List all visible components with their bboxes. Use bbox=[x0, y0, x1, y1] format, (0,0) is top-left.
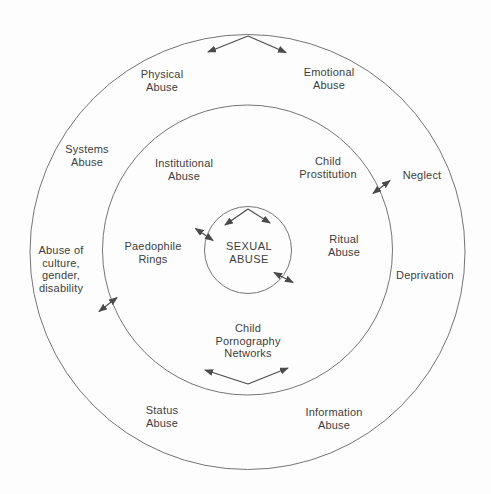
label-ritual-abuse: Ritual Abuse bbox=[328, 233, 360, 258]
arrow-middle-circle-bottom bbox=[205, 368, 288, 384]
arrow-inner-circle-lower-right bbox=[274, 273, 293, 283]
label-physical-abuse: Physical Abuse bbox=[141, 68, 184, 93]
arrow-inner-circle-upper-left bbox=[196, 229, 214, 241]
label-deprivation: Deprivation bbox=[396, 269, 454, 282]
label-sexual-abuse-center: SEXUAL ABUSE bbox=[226, 240, 272, 265]
label-paedophile-rings: Paedophile Rings bbox=[124, 240, 181, 265]
arrow-outer-circle-top bbox=[208, 36, 286, 53]
label-emotional-abuse: Emotional Abuse bbox=[304, 66, 355, 91]
label-status-abuse: Status Abuse bbox=[146, 404, 178, 429]
label-child-prostitution: Child Prostitution bbox=[299, 155, 356, 180]
label-systems-abuse: Systems Abuse bbox=[65, 143, 109, 168]
label-institutional-abuse: Institutional Abuse bbox=[155, 157, 213, 182]
label-information-abuse: Information Abuse bbox=[305, 406, 362, 431]
label-abuse-of-culture-gender-disability: Abuse of culture, gender, disability bbox=[38, 244, 83, 294]
label-child-pornography-networks: Child Pornography Networks bbox=[215, 322, 280, 360]
arrow-inner-circle-top bbox=[225, 209, 270, 225]
diagram-page: Physical Abuse Emotional Abuse Systems A… bbox=[0, 0, 491, 494]
label-neglect: Neglect bbox=[403, 169, 442, 182]
arrow-middle-circle-left bbox=[99, 298, 117, 312]
